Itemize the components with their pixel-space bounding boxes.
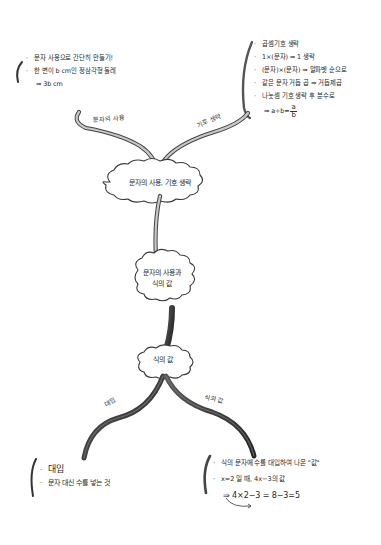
- notes-substitution: ·대입 ·문자 대신 수를 넣는 것: [40, 461, 110, 490]
- note-line: ·1×(문자) ⇒ 1 생략: [254, 51, 347, 64]
- notes-symbol-omission: ·곱셈기호 생략 ·1×(문자) ⇒ 1 생략 ·(문자)×(문자) ⇒ 알파벳…: [254, 38, 347, 119]
- note-line: ·곱셈기호 생략: [254, 38, 347, 51]
- bracket-left-top-icon: [17, 62, 22, 82]
- fraction: ab: [290, 104, 296, 119]
- bracket-right-bottom-icon: [205, 456, 210, 493]
- top-node-label: 문자의 사용, 기호 생략: [110, 178, 210, 189]
- center-node-label: 문자의 사용과 식의 값: [134, 268, 190, 290]
- bracket-left-bottom-icon: [32, 459, 36, 496]
- note-line: ⇒ 4×2−3 = 8−3=5: [213, 487, 319, 505]
- note-line: ·한 변이 b cm인 정삼각형 둘레: [26, 65, 116, 78]
- mind-map-canvas: ·문자 사용으로 간단히 만들기! ·한 변이 b cm인 정삼각형 둘레 ⇒ …: [0, 0, 381, 545]
- notes-expression-value: ·식의 문자에 수를 대입하여 나온 "값" ·x=2 일 때, 4x−3의 값…: [213, 455, 319, 505]
- note-line: ·식의 문자에 수를 대입하여 나온 "값": [213, 455, 319, 471]
- bracket-right-top-icon: [243, 42, 252, 118]
- note-line-formula: ⇒ a÷b=ab: [254, 103, 347, 119]
- note-line: ·(문자)×(문자) ⇒ 알파벳 순으로: [254, 64, 347, 77]
- note-line: ·나눗셈 기호 생략 후 분수로: [254, 90, 347, 103]
- notes-letter-usage: ·문자 사용으로 간단히 만들기! ·한 변이 b cm인 정삼각형 둘레 ⇒ …: [26, 52, 116, 91]
- note-line: ·문자 대신 수를 넣는 것: [40, 477, 110, 490]
- note-line: ·같은 문자 거듭 곱 ⇒ 거듭제곱: [254, 77, 347, 90]
- note-line: ·x=2 일 때, 4x−3의 값: [213, 471, 319, 487]
- note-line: ·문자 사용으로 간단히 만들기!: [26, 52, 116, 65]
- bottom-node-label: 식의 값: [140, 355, 186, 366]
- stem-center-to-bottom: [166, 308, 172, 350]
- branch-expression-value: [166, 376, 254, 456]
- note-line: ⇒ 3b cm: [26, 78, 116, 91]
- note-line: ·대입: [40, 461, 110, 477]
